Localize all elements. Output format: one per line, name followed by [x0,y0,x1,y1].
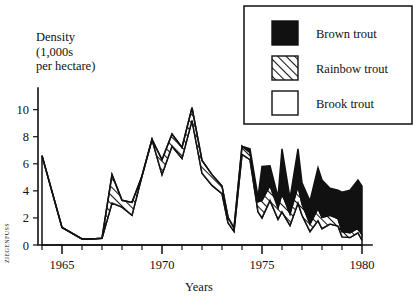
stacked-area-bands [42,108,362,245]
x-axis-title: Years [185,280,213,294]
chart-figure: 0246810 1965197019751980 Density(1,000sp… [0,0,417,299]
y-tick-label: 8 [23,130,29,144]
credit-text: ZIEGENFUSS [4,223,10,263]
legend-label: Brown trout [316,27,377,41]
y-axis-title-line: (1,000s [36,45,73,59]
chart-legend: Brown troutRainbow troutBrook trout [244,6,412,124]
y-tick-label: 6 [23,157,29,171]
legend-label: Brook trout [316,97,375,111]
x-axis-tick-labels: 1965197019751980 [50,258,375,272]
x-tick-label: 1975 [250,258,275,272]
legend-swatch-rainbow-trout [272,56,298,80]
y-axis-tick-labels: 0246810 [17,103,30,252]
legend-swatch-brown-trout [272,21,298,45]
y-axis-title: Density(1,000sper hectare) [36,30,95,73]
y-axis-title-line: Density [36,30,76,44]
y-tick-label: 0 [23,239,29,253]
x-tick-label: 1970 [150,258,175,272]
y-axis-title-line: per hectare) [36,59,95,73]
x-tick-label: 1980 [350,258,375,272]
y-tick-label: 4 [23,184,30,198]
x-tick-label: 1965 [50,258,75,272]
legend-label: Rainbow trout [316,62,388,76]
legend-swatch-brook-trout [272,91,298,115]
trout-density-stacked-area-chart: 0246810 1965197019751980 Density(1,000sp… [0,0,417,299]
y-tick-label: 10 [17,103,30,117]
y-tick-label: 2 [23,211,29,225]
